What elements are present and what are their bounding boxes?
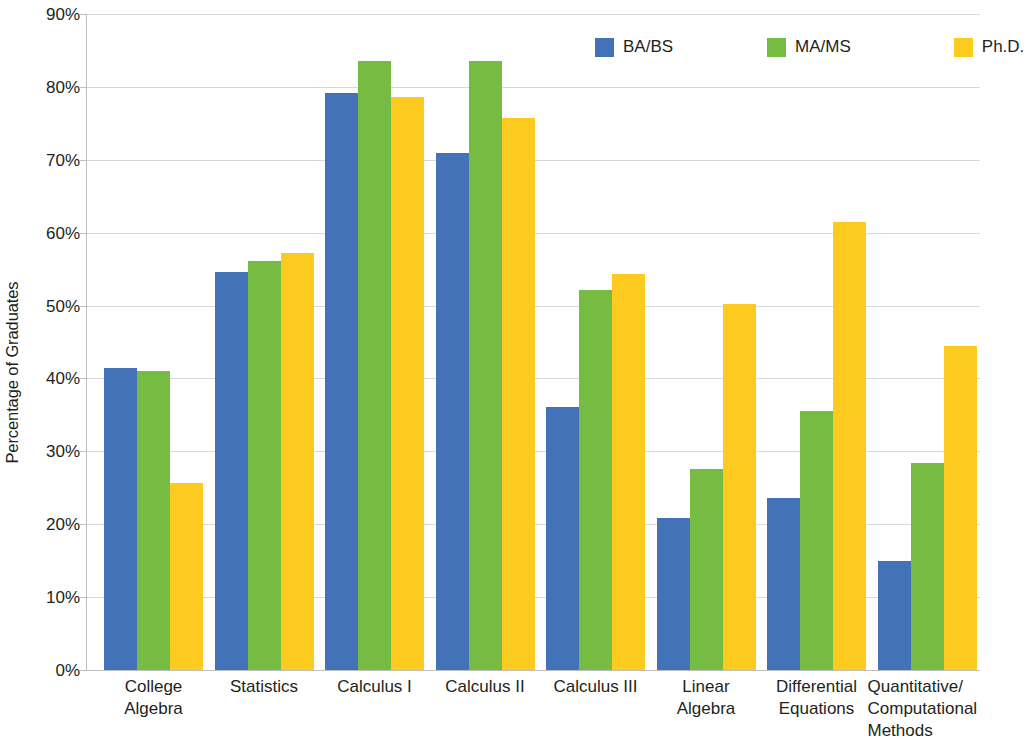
bar[interactable] (657, 518, 690, 670)
y-axis-tick-mark (80, 14, 87, 15)
legend-entry[interactable]: MA/MS (767, 37, 851, 57)
bar[interactable] (767, 498, 800, 670)
bar[interactable] (358, 61, 391, 670)
bar[interactable] (325, 93, 358, 670)
bar[interactable] (281, 253, 314, 670)
bar[interactable] (579, 290, 612, 670)
bar[interactable] (502, 118, 535, 670)
y-axis-tick-label: 20% (20, 516, 80, 533)
legend-swatch-green (767, 38, 786, 57)
legend-entry[interactable]: BA/BS (595, 37, 673, 57)
y-axis-tick-label: 30% (20, 443, 80, 460)
y-axis-tick-mark (80, 378, 87, 379)
y-axis-tick-label: 80% (20, 78, 80, 95)
y-axis-tick-label: 50% (20, 297, 80, 314)
bar[interactable] (878, 561, 911, 670)
x-axis-tick-label: Quantitative/ Computational Methods (868, 676, 1028, 742)
y-axis-tick-label: 0% (20, 662, 80, 679)
bar[interactable] (215, 272, 248, 670)
legend: BA/BSMA/MSPh.D. (595, 37, 1024, 57)
bar[interactable] (391, 97, 424, 670)
bar[interactable] (612, 274, 645, 671)
bar[interactable] (104, 368, 137, 670)
bar[interactable] (911, 463, 944, 670)
bar-group (104, 0, 203, 670)
y-axis-tick-labels: 90%80%70%60%50%40%30%20%10%0% (20, 0, 80, 745)
bar-group (325, 0, 424, 670)
bar[interactable] (833, 222, 866, 670)
x-axis-baseline (87, 670, 980, 671)
bar[interactable] (800, 411, 833, 670)
y-axis-tick-mark (80, 597, 87, 598)
bar[interactable] (690, 469, 723, 670)
bar-group (767, 0, 866, 670)
bar[interactable] (248, 261, 281, 670)
y-axis-tick-label: 10% (20, 589, 80, 606)
y-axis-tick-mark (80, 524, 87, 525)
y-axis-tick-mark (80, 87, 87, 88)
y-axis-tick-label: 70% (20, 151, 80, 168)
legend-swatch-blue (595, 38, 614, 57)
bar-group (215, 0, 314, 670)
bar[interactable] (944, 346, 977, 670)
legend-label: MA/MS (795, 37, 851, 57)
bar-group (878, 0, 977, 670)
legend-label: BA/BS (623, 37, 673, 57)
y-axis-tick-mark (80, 451, 87, 452)
bar[interactable] (170, 483, 203, 670)
x-axis-tick-labels: College AlgebraStatisticsCalculus ICalcu… (87, 676, 993, 745)
legend-entry[interactable]: Ph.D. (954, 37, 1025, 57)
legend-label: Ph.D. (982, 37, 1025, 57)
bar-group (546, 0, 645, 670)
y-axis-tick-label: 60% (20, 224, 80, 241)
bars-layer (87, 0, 980, 670)
y-axis-tick-label: 90% (20, 6, 80, 23)
bar[interactable] (723, 304, 756, 670)
legend-swatch-yellow (954, 38, 973, 57)
y-axis-tick-mark (80, 233, 87, 234)
y-axis-tick-mark (80, 160, 87, 161)
bar[interactable] (546, 407, 579, 670)
bar-group (436, 0, 535, 670)
y-axis-tick-mark (80, 306, 87, 307)
bar[interactable] (469, 61, 502, 670)
bar[interactable] (436, 153, 469, 671)
bar-group (657, 0, 756, 670)
bar[interactable] (137, 371, 170, 670)
y-axis-tick-mark (80, 670, 87, 671)
y-axis-tick-label: 40% (20, 370, 80, 387)
